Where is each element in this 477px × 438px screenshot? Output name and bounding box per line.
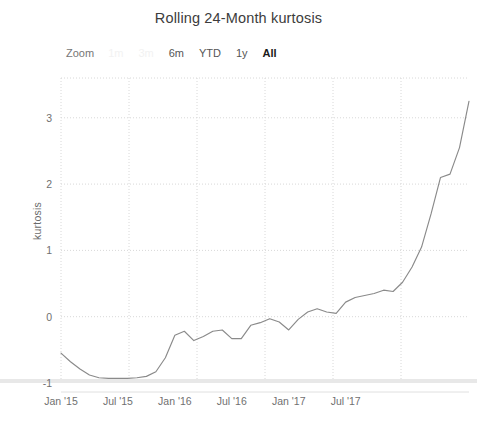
baseline-band	[0, 379, 477, 383]
x-axis-tick-label: Jul '17	[331, 395, 361, 407]
x-axis-tick-label: Jan '16	[158, 395, 192, 407]
y-axis-tick-label: 0	[12, 311, 52, 323]
x-axis-tick-label: Jan '15	[44, 395, 78, 407]
plot-svg	[0, 0, 477, 438]
x-axis-tick-label: Jul '16	[217, 395, 247, 407]
chart-container: Rolling 24-Month kurtosis Zoom 1m 3m 6m …	[0, 0, 477, 438]
y-axis-tick-label: -1	[12, 377, 52, 389]
grid-lines	[61, 78, 469, 383]
y-axis-tick-label: 2	[12, 178, 52, 190]
x-axis-tick-label: Jul '15	[103, 395, 133, 407]
y-axis-tick-label: 1	[12, 244, 52, 256]
x-axis-tick-label: Jan '17	[272, 395, 306, 407]
plot-area: kurtosis -10123 Jan '15Jul '15Jan '16Jul…	[0, 0, 477, 438]
y-axis-tick-label: 3	[12, 112, 52, 124]
